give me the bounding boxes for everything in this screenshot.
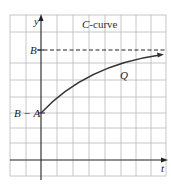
b-label: B (30, 44, 37, 56)
q-label: Q (120, 69, 128, 81)
q-curve (41, 55, 160, 113)
diagram-title: C-curve (82, 18, 118, 30)
grid (10, 15, 166, 176)
c-curve-diagram: y t B B − A Q C-curve (0, 0, 171, 194)
b-minus-a-label: B − A (14, 107, 40, 119)
curve-arrow-icon (157, 53, 164, 58)
x-axis-label: t (161, 162, 165, 174)
y-axis-label: y (33, 15, 39, 27)
